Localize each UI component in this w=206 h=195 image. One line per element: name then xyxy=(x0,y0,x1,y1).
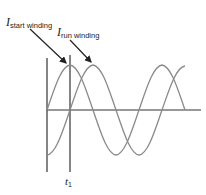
run-winding-arrow xyxy=(70,40,91,62)
start-winding-label: Istart winding xyxy=(5,15,52,30)
run-winding-label: Irun winding xyxy=(56,25,99,40)
t1-label: t1 xyxy=(65,175,72,188)
waveform-diagram: Istart winding Irun winding t1 xyxy=(0,0,206,195)
